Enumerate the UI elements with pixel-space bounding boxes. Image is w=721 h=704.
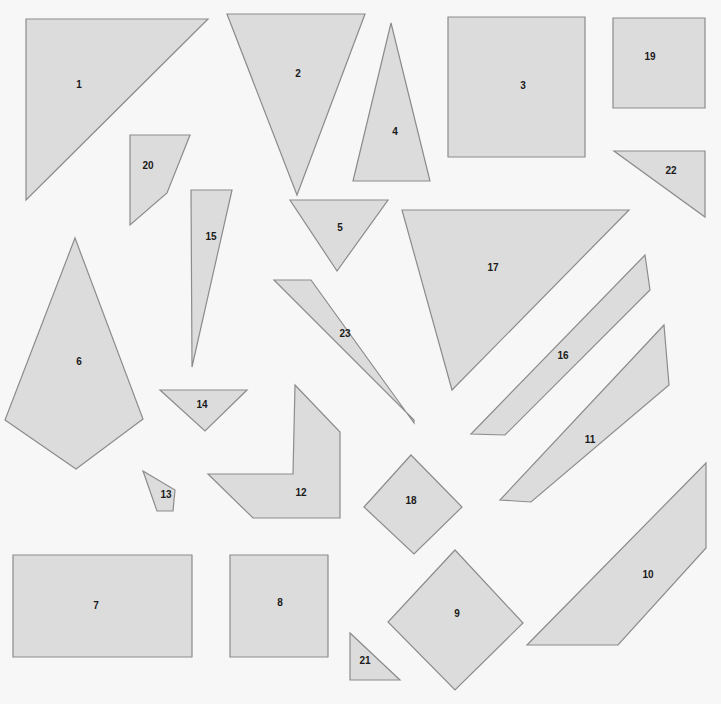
- shape-3[interactable]: [448, 17, 585, 157]
- shape-19[interactable]: [613, 18, 705, 108]
- shape-7[interactable]: [13, 555, 192, 657]
- shape-canvas-container: 1234567891011121314151617181920212223: [0, 0, 721, 704]
- shape-canvas[interactable]: 1234567891011121314151617181920212223: [0, 0, 721, 704]
- shape-8[interactable]: [230, 555, 328, 657]
